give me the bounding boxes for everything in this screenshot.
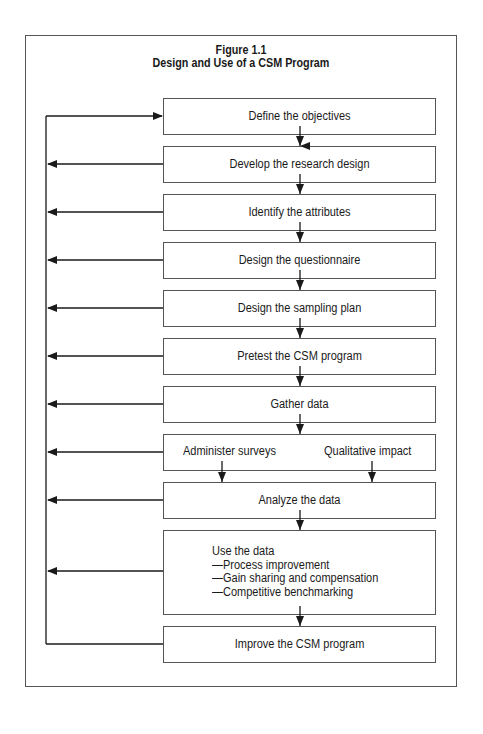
down-arrows: [0, 0, 483, 734]
